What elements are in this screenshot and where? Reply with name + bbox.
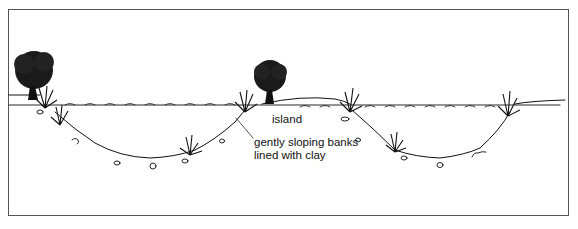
island-mound	[262, 98, 350, 104]
island-label: island	[272, 113, 302, 126]
ground-right	[515, 100, 565, 104]
pond-bed-right	[352, 110, 510, 158]
banks-label-line2: lined with clay	[254, 149, 326, 162]
pond-bed-left	[55, 110, 245, 158]
tree-left-icon	[14, 51, 54, 100]
label-pointer-line	[236, 118, 253, 138]
banks-label-line1: gently sloping banks	[254, 136, 358, 149]
tree-island-icon	[254, 60, 287, 104]
